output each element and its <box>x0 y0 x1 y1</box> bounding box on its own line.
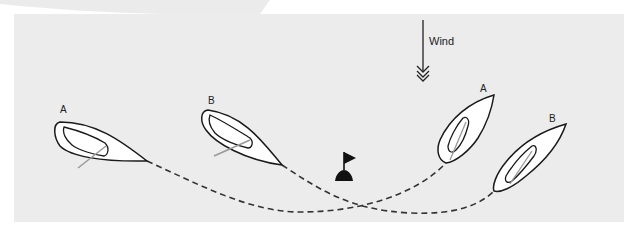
boat-b-start: B <box>202 95 282 165</box>
boat-label: B <box>208 95 215 106</box>
wind-arrow-icon <box>417 20 429 81</box>
flag-buoy-icon <box>335 152 356 181</box>
sailing-mark-rounding-diagram: A B A B Wind <box>0 0 636 239</box>
wind-label: Wind <box>429 35 454 47</box>
boat-label: B <box>549 113 556 124</box>
boat-a-after-mark: A <box>438 83 494 163</box>
boat-b-after-mark: B <box>494 113 567 191</box>
boat-a-start: A <box>55 104 147 168</box>
path-boat-b <box>282 165 494 213</box>
boat-label: A <box>480 83 487 94</box>
path-boat-a <box>147 161 446 212</box>
boat-label: A <box>60 104 67 115</box>
